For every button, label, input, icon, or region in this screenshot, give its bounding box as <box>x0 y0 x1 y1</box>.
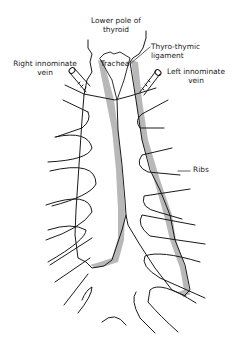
label-lower-pole-of-thyroid: Lower pole of thyroid <box>84 17 148 34</box>
thymus-diagram: Lower pole of thyroid Trachea Thyro-thym… <box>0 0 235 349</box>
label-line: ligament <box>151 52 200 61</box>
label-ribs: Ribs <box>193 166 209 175</box>
label-line: vein <box>163 77 229 86</box>
thymus-shading <box>90 60 190 295</box>
ribs-left <box>46 100 96 313</box>
label-line: Trachea <box>99 60 131 69</box>
label-left-innominate-vein: Left innominate vein <box>163 68 229 85</box>
label-line: vein <box>12 69 78 78</box>
label-thyro-thymic-ligament: Thyro-thymic ligament <box>151 43 200 60</box>
left-innominate-vein <box>140 68 162 95</box>
label-line: thyroid <box>84 26 148 35</box>
thyroid-outline <box>84 40 92 95</box>
label-right-innominate-vein: Right innominate vein <box>12 60 78 77</box>
label-trachea: Trachea <box>99 60 131 69</box>
thymus-midline <box>117 100 186 296</box>
label-line: Ribs <box>193 166 209 175</box>
